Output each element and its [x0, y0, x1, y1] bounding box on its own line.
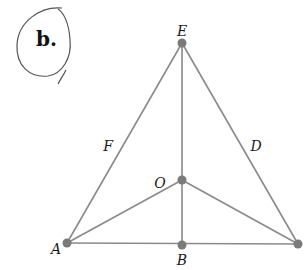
- label-D: D: [249, 138, 261, 154]
- label-O: O: [154, 175, 166, 191]
- label-A: A: [49, 241, 61, 257]
- label-B: B: [176, 252, 187, 268]
- label-F: F: [102, 138, 114, 154]
- point-A: [63, 239, 72, 248]
- point-E: [178, 39, 187, 48]
- point-C: [294, 240, 303, 249]
- triangle-diagram: b. E O B A F D: [0, 0, 305, 270]
- edge-EC: [182, 43, 298, 244]
- point-O: [178, 176, 187, 185]
- point-B: [178, 241, 187, 250]
- edge-OC: [182, 180, 298, 244]
- edges: [67, 43, 298, 245]
- edge-EA: [67, 43, 182, 243]
- label-E: E: [176, 23, 187, 39]
- figure-tag: b.: [36, 27, 57, 51]
